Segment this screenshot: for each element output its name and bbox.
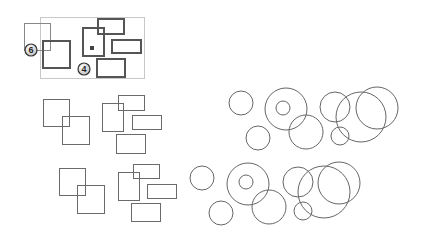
circle [252,190,286,224]
circle-large [356,87,398,129]
circle-small [294,202,312,220]
square [60,169,86,196]
square [78,186,105,214]
diagram-canvas: 6 4 [0,0,421,236]
tall-rect [103,104,124,132]
anchor-point [90,46,94,50]
bottom-rect [132,204,161,222]
badge-6-label: 6 [28,45,33,55]
badge-6: 6 [25,44,37,56]
thick-right-rect [112,40,141,53]
circle [209,201,233,225]
circle-large [336,92,386,142]
square [63,117,90,145]
circle [227,163,269,205]
circle [229,91,253,115]
circle-inner [276,101,290,115]
circle [265,88,307,130]
selection-panel: 6 4 [25,18,145,79]
circle [320,92,350,122]
thick-square [43,41,70,68]
circle-large [298,166,350,218]
squares-group-2 [60,165,177,222]
thick-tall-rect [83,28,104,56]
thick-top-rect [98,19,124,34]
right-rect [133,116,162,130]
circles-group-2 [190,162,360,225]
circle [190,166,214,190]
top-rect [134,165,160,179]
tall-rect [119,173,140,201]
bottom-rect [117,135,146,154]
circle [246,126,270,150]
circle [289,115,323,149]
thick-bottom-rect [97,59,125,77]
circles-group-1 [229,87,398,150]
circle-large [318,162,360,204]
badge-4-label: 4 [81,64,86,74]
badge-4: 4 [78,63,90,75]
circle-inner [239,175,253,189]
right-rect [148,185,177,199]
square [44,100,70,127]
squares-group-1 [44,96,162,154]
